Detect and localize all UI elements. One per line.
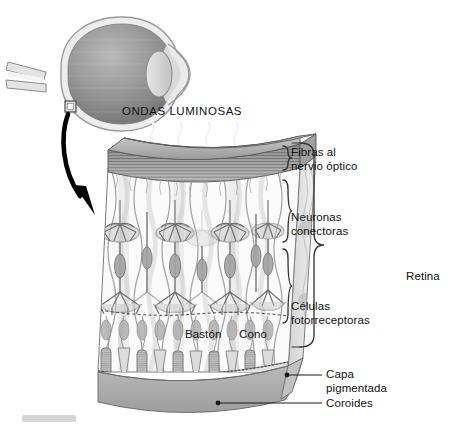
label-celulas-fotorreceptoras-line1: Células <box>291 300 330 313</box>
label-capa-pigmentada-line2: pigmentada <box>326 382 387 395</box>
label-capa-pigmentada-line1: Capa <box>326 368 354 381</box>
label-neuronas-conectoras-line2: conectoras <box>291 225 348 238</box>
retina-diagram-svg <box>0 0 452 426</box>
callout-arrow <box>64 114 95 215</box>
label-fibras-nervio-optico-line2: nervio óptico <box>291 160 358 173</box>
label-coroides: Coroides <box>326 397 373 410</box>
lens <box>146 51 172 97</box>
retina-block-3d <box>98 134 319 424</box>
label-neuronas-conectoras-line1: Neuronas <box>291 211 342 224</box>
label-retina: Retina <box>406 270 440 283</box>
callout-box-inner <box>68 104 74 110</box>
optic-nerve <box>6 62 46 92</box>
page-artifact-bar <box>22 415 76 422</box>
figure-canvas: ONDAS LUMINOSAS Fibras al nervio óptico … <box>0 0 452 426</box>
label-ondas-luminosas: ONDAS LUMINOSAS <box>122 105 242 118</box>
label-fibras-nervio-optico-line1: Fibras al <box>291 146 336 159</box>
label-baston: Bastón <box>185 328 221 341</box>
label-cono: Cono <box>239 328 267 341</box>
label-celulas-fotorreceptoras-line2: fotorreceptoras <box>291 314 370 327</box>
